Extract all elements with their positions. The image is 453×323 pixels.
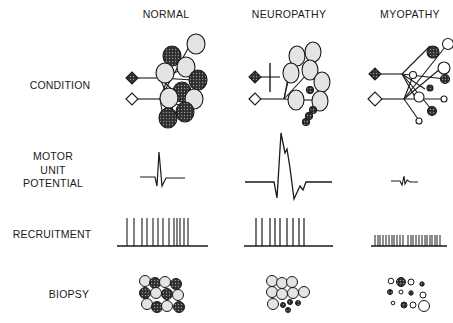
motor-neuron-light-icon (368, 92, 382, 106)
motor-neuron-dark-icon (126, 72, 138, 84)
condition-neuropathy (249, 42, 330, 126)
mup-normal (140, 152, 185, 186)
mup-neuropathy (245, 133, 332, 199)
condition-myopathy (368, 39, 453, 125)
motor-neuron-light-icon (126, 93, 138, 105)
motor-neuron-dark-icon (249, 71, 261, 83)
biopsy-myopathy (388, 278, 430, 312)
motor-neuron-dark-icon (369, 68, 381, 80)
condition-normal (126, 34, 207, 128)
recruitment-normal (117, 218, 208, 246)
recruitment-myopathy (371, 235, 447, 246)
mup-myopathy (391, 176, 418, 185)
biopsy-neuropathy (267, 276, 310, 313)
biopsy-normal (140, 276, 185, 313)
motor-neuron-light-icon (249, 93, 261, 105)
diagram-canvas (0, 0, 453, 323)
recruitment-neuropathy (244, 218, 333, 246)
